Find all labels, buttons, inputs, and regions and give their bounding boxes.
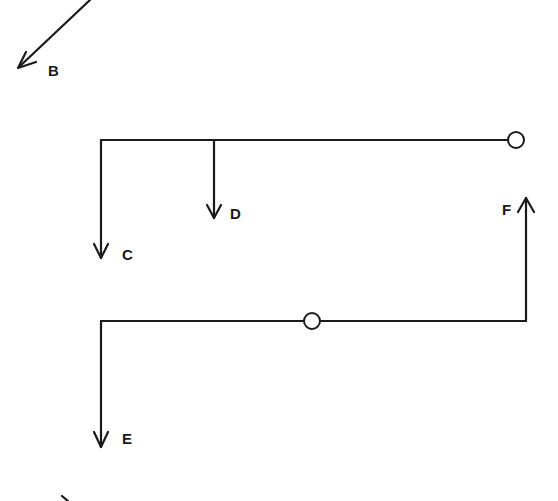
top-beam [101, 132, 524, 148]
arrow-e: E [94, 321, 132, 447]
arrow-b: B [18, 0, 90, 79]
bottom-pivot-circle-icon [304, 313, 320, 329]
top-pivot-circle-icon [508, 132, 524, 148]
bottom-beam [101, 313, 526, 329]
arrow-f: F [502, 198, 534, 321]
diagram-canvas: B C D E F [0, 0, 558, 501]
label-d: D [230, 205, 241, 222]
label-c: C [122, 246, 133, 263]
partial-arrow-mark [62, 496, 68, 501]
arrow-c: C [94, 140, 133, 263]
arrow-d: D [207, 140, 241, 222]
label-e: E [122, 430, 132, 447]
label-f: F [502, 201, 511, 218]
label-b: B [48, 62, 59, 79]
